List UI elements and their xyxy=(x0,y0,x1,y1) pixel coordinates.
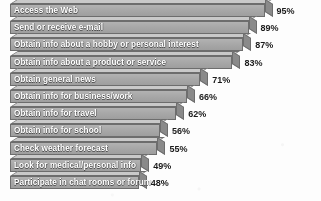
bar-category-label: Send or receive e-mail xyxy=(14,23,103,33)
bar-side-face xyxy=(141,154,149,172)
horizontal-bar-chart: Access the Web95%Send or receive e-mail8… xyxy=(0,0,321,201)
bar-side-face xyxy=(176,102,184,120)
bar-value-label: 89% xyxy=(261,23,279,33)
bar-value-label: 66% xyxy=(199,92,217,102)
bar-side-face xyxy=(160,119,168,137)
bar-side-face xyxy=(200,68,208,86)
bar-value-label: 95% xyxy=(277,6,295,16)
bar-value-label: 49% xyxy=(153,161,171,171)
bar-category-label: Obtain info for business/work xyxy=(14,92,132,102)
bar-category-label: Participate in chat rooms or forum xyxy=(14,178,151,188)
bar-value-label: 48% xyxy=(151,178,169,188)
bar-category-label: Obtain info for school xyxy=(14,126,101,136)
bar-side-face xyxy=(187,85,195,103)
bar-category-label: Access the Web xyxy=(14,6,78,16)
bar-side-face xyxy=(157,137,165,155)
bar-category-label: Check weather forecast xyxy=(14,144,108,154)
bar-category-label: Obtain info for travel xyxy=(14,109,97,119)
bar-side-face xyxy=(232,51,240,69)
bar-value-label: 83% xyxy=(244,58,262,68)
bar-side-face xyxy=(249,16,257,34)
bar-category-label: Obtain info about a hobby or personal in… xyxy=(14,40,199,50)
bar-side-face xyxy=(243,33,251,51)
bar-category-label: Obtain general news xyxy=(14,75,96,85)
bar-value-label: 56% xyxy=(172,126,190,136)
bar-category-label: Obtain info about a product or service xyxy=(14,58,166,68)
bar-value-label: 87% xyxy=(255,40,273,50)
bar-side-face xyxy=(265,0,273,17)
bar-value-label: 55% xyxy=(169,144,187,154)
bar-value-label: 62% xyxy=(188,109,206,119)
bar-category-label: Look for medical/personal info xyxy=(14,161,136,171)
bar-value-label: 71% xyxy=(212,75,230,85)
